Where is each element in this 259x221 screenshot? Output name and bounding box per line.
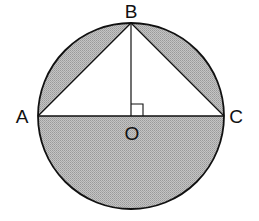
label-a: A (16, 106, 29, 127)
circle-diagram: B A C O (0, 0, 259, 221)
label-o: O (125, 123, 140, 144)
label-c: C (229, 106, 243, 127)
label-b: B (125, 1, 138, 22)
right-angle-marker (131, 104, 143, 116)
